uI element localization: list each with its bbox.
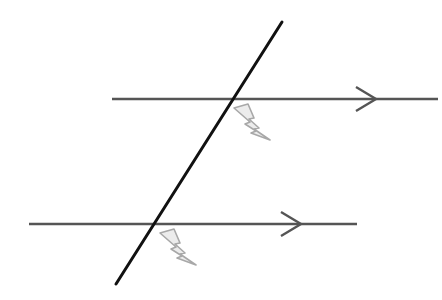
diagram-canvas: [0, 0, 442, 300]
background: [0, 0, 442, 300]
